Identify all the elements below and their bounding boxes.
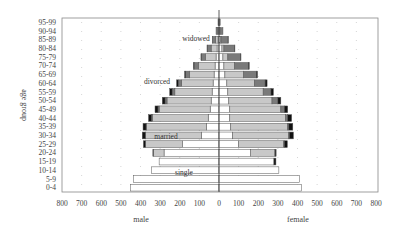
bar-female-single	[219, 149, 250, 156]
y-tick-label: 15-19	[39, 157, 57, 166]
bar-female-married	[239, 141, 284, 148]
bar-female-widowed	[221, 36, 228, 43]
bar-male-widowed	[218, 19, 219, 26]
bar-female-married	[231, 123, 288, 130]
y-tick-label: 95-99	[39, 18, 57, 27]
bar-male-married	[211, 45, 217, 52]
x-tick-label: 800	[56, 199, 68, 208]
bar-male-married	[153, 149, 164, 156]
bar-female-divorced	[289, 123, 293, 130]
x-tick-label: 400	[135, 199, 147, 208]
bar-male-divorced	[155, 106, 158, 113]
population-pyramid-chart: 0-45-910-1415-1920-2425-2930-3435-3940-4…	[0, 0, 397, 234]
bar-male-single	[216, 54, 219, 61]
bar-male-married	[146, 123, 206, 130]
bar-male-divorced	[177, 80, 179, 87]
y-tick-labels: 0-45-910-1415-1920-2425-2930-3435-3940-4…	[39, 18, 57, 192]
bar-female-widowed	[235, 62, 249, 69]
bar-female-widowed	[224, 45, 235, 52]
x-tick-label: 400	[292, 199, 304, 208]
plot-frame	[62, 18, 378, 192]
bar-female-married	[224, 62, 235, 69]
bar-male-single	[131, 184, 219, 191]
bar-female-divorced	[274, 158, 276, 165]
bar-female-widowed	[281, 106, 285, 113]
bar-male-married	[205, 54, 216, 61]
bar-male-single	[206, 123, 219, 130]
annotation-married: married	[154, 132, 178, 141]
annotation-single: single	[175, 168, 194, 177]
y-tick-label: 25-29	[39, 140, 57, 149]
bar-male-divorced	[170, 89, 172, 96]
y-tick-label: 70-74	[39, 61, 57, 70]
bar-female-single	[219, 123, 231, 130]
bar-male-married	[182, 80, 213, 87]
bar-female-divorced	[284, 141, 287, 148]
bar-male-married	[198, 62, 215, 69]
y-tick-label: 10-14	[39, 166, 57, 175]
bar-male-married	[167, 97, 211, 104]
bar-female-married	[225, 71, 244, 78]
bar-female-divorced	[284, 106, 287, 113]
bar-male-married	[190, 71, 215, 78]
bar-female-divorced	[265, 80, 267, 87]
bar-male-widowed	[172, 89, 175, 96]
bar-female-widowed	[286, 115, 288, 122]
bar-female-divorced	[271, 89, 273, 96]
bar-male-divorced	[143, 123, 146, 130]
x-axis-label-male: male	[133, 215, 149, 224]
bar-female-married	[227, 80, 254, 87]
x-tick-label: 500	[312, 199, 324, 208]
x-tick-label: 600	[96, 199, 108, 208]
bar-female-married	[228, 89, 263, 96]
bar-female-widowed	[263, 89, 271, 96]
x-axis-label-female: female	[287, 215, 309, 224]
y-tick-label: 55-59	[39, 88, 57, 97]
annotation-divorced: divorced	[144, 77, 170, 86]
x-tick-label: 100	[194, 199, 206, 208]
y-tick-label: 50-54	[39, 96, 57, 105]
bar-female-single	[219, 62, 224, 69]
bar-female-single	[219, 89, 228, 96]
bar-female-married	[230, 106, 281, 113]
x-tick-label: 800	[370, 199, 382, 208]
y-tick-label: 85-89	[39, 35, 57, 44]
y-tick-label: 60-64	[39, 79, 57, 88]
bar-male-widowed	[216, 28, 218, 35]
annotation-widowed: widowed	[182, 34, 210, 43]
bar-female-divorced	[275, 149, 276, 156]
bar-female-single	[219, 97, 229, 104]
bar-female-divorced	[278, 97, 281, 104]
bar-female-single	[219, 158, 274, 165]
bar-male-married	[216, 36, 218, 43]
bar-male-divorced	[185, 71, 186, 78]
bars	[131, 19, 302, 191]
bar-male-widowed	[165, 97, 167, 104]
y-tick-label: 5-9	[46, 175, 56, 184]
bar-female-married	[229, 97, 272, 104]
bar-female-divorced	[248, 62, 249, 69]
x-tick-label: 0	[217, 199, 221, 208]
x-tick-label: 700	[351, 199, 363, 208]
y-tick-label: 0-4	[46, 183, 56, 192]
bar-female-married	[223, 54, 228, 61]
bar-male-divorced	[142, 132, 145, 139]
bar-male-married	[159, 106, 210, 113]
y-tick-label: 35-39	[39, 122, 57, 131]
y-tick-label: 90-94	[39, 27, 57, 36]
bar-male-single	[213, 80, 219, 87]
bar-male-widowed	[194, 62, 198, 69]
bar-female-single	[219, 184, 301, 191]
bar-male-married	[145, 141, 182, 148]
bar-female-widowed	[272, 97, 278, 104]
bar-male-single	[183, 141, 219, 148]
y-axis-label: age group	[20, 89, 29, 121]
x-tick-label: 600	[331, 199, 343, 208]
bar-male-single	[214, 71, 219, 78]
bar-female-single	[219, 115, 230, 122]
bar-female-divorced	[289, 132, 293, 139]
bar-female-single	[219, 176, 299, 183]
x-tick-labels: 8007006005004003002001000100200300400500…	[56, 199, 382, 208]
bar-female-single	[219, 80, 227, 87]
bar-male-divorced	[162, 97, 165, 104]
